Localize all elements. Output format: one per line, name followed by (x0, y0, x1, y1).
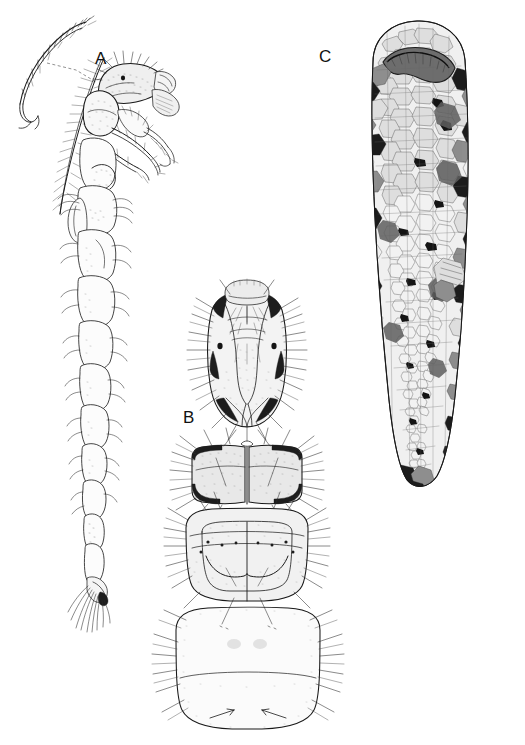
stemma-right (271, 343, 276, 349)
panel-c-larval-case: C (315, 10, 525, 500)
mouthparts (152, 71, 179, 116)
illustration-plate: A (0, 0, 525, 745)
panel-label-b: B (183, 409, 195, 426)
stemma-left (217, 343, 222, 349)
panel-label-c: C (319, 48, 332, 65)
metanotum (152, 598, 344, 729)
head-capsule-dorsal (187, 279, 307, 442)
panel-label-a: A (95, 50, 107, 67)
abdomen (58, 138, 133, 632)
mesonotum (164, 492, 330, 608)
panel-c-drawing (315, 10, 525, 500)
